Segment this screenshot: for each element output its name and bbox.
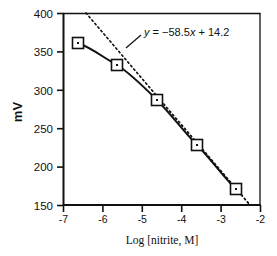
x-axis-title: Log [nitrite, M]: [126, 234, 199, 247]
y-tick-labels: 400 350 300 250 200 150: [34, 8, 53, 212]
equation-slope-part: = −58.5: [150, 26, 190, 38]
x-tick-label-minus7: -7: [59, 213, 68, 225]
equation-intercept-part: + 14.2: [195, 26, 229, 38]
y-tick-label-400: 400: [34, 8, 53, 20]
fit-equation-label: y = −58.5x + 14.2: [143, 26, 229, 38]
x-tick-label-minus5: -5: [138, 213, 147, 225]
data-point-marker: [152, 95, 163, 106]
chart-canvas: 400 350 300 250 200 150 -7 -6 -5 -4 -3 -…: [0, 0, 277, 256]
x-tick-label-minus3: -3: [216, 213, 225, 225]
data-line: [78, 43, 236, 189]
x-tick-labels: -7 -6 -5 -4 -3 -2: [59, 213, 265, 225]
y-tick-label-150: 150: [34, 200, 53, 212]
y-tick-label-200: 200: [34, 161, 53, 173]
y-tick-label-250: 250: [34, 123, 53, 135]
x-tick-label-minus2: -2: [256, 213, 265, 225]
data-point-marker: [231, 184, 242, 195]
y-axis-title: mV: [10, 102, 25, 123]
x-axis-ticks: [64, 205, 261, 212]
plot-frame: [63, 13, 261, 206]
data-point-marker: [73, 38, 84, 49]
x-tick-label-minus6: -6: [98, 213, 107, 225]
x-tick-label-minus4: -4: [177, 213, 186, 225]
data-markers: [73, 38, 242, 195]
y-tick-label-350: 350: [34, 46, 53, 58]
chart-figure: 400 350 300 250 200 150 -7 -6 -5 -4 -3 -…: [0, 0, 277, 256]
annotation-leader-line: [126, 35, 141, 48]
data-point-marker: [192, 140, 203, 151]
data-point-marker: [112, 60, 123, 71]
y-tick-label-300: 300: [34, 85, 53, 97]
